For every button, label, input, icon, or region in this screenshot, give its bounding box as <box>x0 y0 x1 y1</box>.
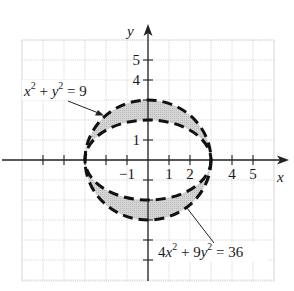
x-tick-label: 2 <box>186 166 194 182</box>
x-tick-label: 4 <box>228 166 236 182</box>
x-tick-label: 1 <box>165 166 173 182</box>
x-axis-label: x <box>276 169 284 185</box>
y-tick-label: 1 <box>133 132 141 148</box>
y-tick-label: 5 <box>133 52 141 68</box>
x-tick-label: 5 <box>249 166 257 182</box>
ellipse-equation-label: 4x2 + 9y2 = 36 <box>158 241 244 260</box>
y-tick-label: 4 <box>133 72 141 88</box>
graph-figure: −11245145 y x x2 + y2 = 9 4x2 + 9y2 = 36 <box>0 0 294 291</box>
x-tick-label: −1 <box>119 166 135 182</box>
y-axis-label: y <box>125 23 134 39</box>
